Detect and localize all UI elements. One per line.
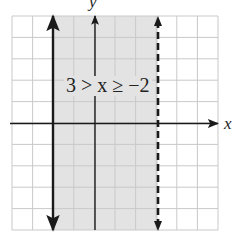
y-axis-label: y: [87, 0, 97, 11]
inequality-label: 3 > x ≥ −2: [66, 74, 150, 96]
x-axis-label: x: [223, 114, 232, 133]
inequality-graph: x y 3 > x ≥ −2: [0, 0, 236, 235]
